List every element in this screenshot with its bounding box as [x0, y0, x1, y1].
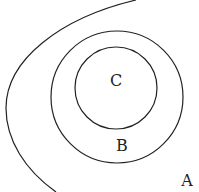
set-a-label: A — [181, 173, 193, 189]
nested-set-diagram: C B A — [0, 0, 199, 192]
set-b-label: B — [116, 138, 128, 154]
diagram-canvas — [0, 0, 199, 192]
set-c-label: C — [110, 73, 122, 89]
